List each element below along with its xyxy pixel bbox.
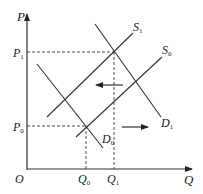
p0-label: P0 — [12, 120, 24, 135]
s0-curve — [76, 57, 162, 137]
x-axis-label: Q — [184, 172, 194, 187]
q0-label: Q0 — [78, 172, 91, 187]
s1-curve — [47, 33, 133, 117]
q1-label: Q1 — [107, 172, 120, 187]
s1-label: S1 — [133, 20, 143, 35]
d0-curve — [37, 64, 103, 148]
d1-label: D1 — [160, 116, 174, 131]
p1-label: P1 — [12, 46, 24, 61]
origin-label: O — [15, 172, 24, 186]
s0-label: S0 — [162, 43, 172, 58]
d0-label: D0 — [101, 132, 115, 147]
supply-demand-diagram: P Q O P1 P0 Q0 Q1 S1 S0 D1 D0 — [0, 0, 203, 194]
y-axis-label: P — [16, 9, 25, 24]
